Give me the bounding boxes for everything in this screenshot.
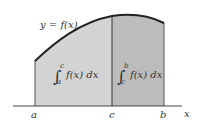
integral-additivity-diagram: y = f(x) ∫ c a f(x) dx ∫ b c f(x) dx a c… — [0, 0, 203, 122]
label-c: c — [109, 109, 115, 120]
right-integral-upper: b — [124, 62, 129, 70]
left-integral-integrand: f(x) dx — [65, 69, 99, 80]
label-b: b — [160, 109, 166, 120]
left-integral-upper: c — [60, 62, 64, 70]
label-a: a — [31, 109, 37, 120]
label-x: x — [184, 108, 190, 119]
right-integral-integrand: f(x) dx — [129, 69, 163, 80]
left-integral-lower: a — [57, 78, 61, 86]
right-integral-lower: c — [121, 78, 125, 86]
region-c-to-b — [112, 15, 164, 106]
curve-label: y = f(x) — [39, 19, 78, 30]
